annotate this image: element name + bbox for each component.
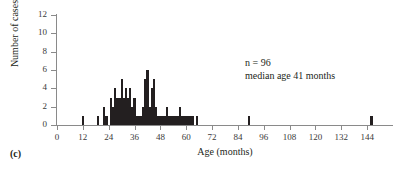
y-axis-tick: [51, 33, 56, 34]
histogram-bar: [97, 116, 99, 125]
x-axis-tick: [186, 126, 187, 130]
x-axis-tick: [238, 126, 239, 130]
histogram-bar: [82, 116, 84, 125]
histogram-bar: [192, 116, 194, 125]
y-axis-tick-label: 8: [21, 47, 47, 56]
panel-label: (c): [10, 148, 21, 159]
histogram-bars: [57, 15, 393, 125]
y-axis-tick-label: 4: [21, 83, 47, 92]
y-axis-tick: [51, 125, 56, 126]
x-axis-tick: [160, 126, 161, 130]
y-axis-tick: [51, 15, 56, 16]
x-axis-tick: [341, 126, 342, 130]
histogram-bar: [248, 116, 250, 125]
x-axis-tick: [57, 126, 58, 130]
y-axis-tick-label: 12: [21, 10, 47, 19]
annotation-median-age: median age 41 months: [245, 69, 335, 82]
x-axis-tick: [212, 126, 213, 130]
histogram-bar: [196, 116, 198, 125]
y-axis-tick-label: 0: [21, 120, 47, 129]
x-axis-tick: [83, 126, 84, 130]
x-axis-tick: [109, 126, 110, 130]
y-axis-tick-label: 2: [21, 102, 47, 111]
histogram-bar: [370, 116, 372, 125]
x-axis-tick: [264, 126, 265, 130]
histogram-figure: 024681012 01224364860728496108120132144 …: [0, 0, 404, 171]
chart-annotation: n = 96 median age 41 months: [245, 56, 335, 82]
x-axis-tick: [290, 126, 291, 130]
histogram-bar: [105, 116, 107, 125]
x-axis-tick: [315, 126, 316, 130]
x-axis-tick-label: 144: [352, 132, 382, 142]
y-axis-tick: [51, 88, 56, 89]
y-axis-tick: [51, 52, 56, 53]
y-axis-tick: [51, 70, 56, 71]
x-axis-tick: [367, 126, 368, 130]
y-axis-tick-label: 6: [21, 65, 47, 74]
y-axis-tick: [51, 107, 56, 108]
annotation-sample-size: n = 96: [245, 56, 335, 69]
x-axis-tick: [135, 126, 136, 130]
x-axis-spine: [56, 125, 393, 126]
x-axis-title: Age (months): [57, 146, 393, 157]
y-axis-tick-label: 10: [21, 28, 47, 37]
y-axis-title: Number of cases: [9, 0, 20, 82]
